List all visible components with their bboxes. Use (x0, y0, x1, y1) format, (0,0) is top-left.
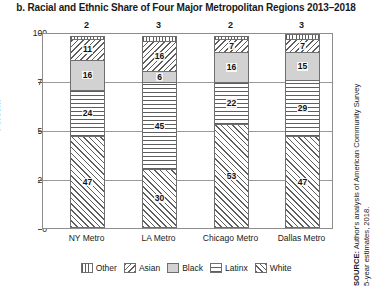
legend: Other Asian Black Latinx White (0, 263, 372, 273)
segment-asian-chicago: 7 (214, 39, 249, 53)
legend-label-white: White (270, 263, 292, 273)
legend-item-asian[interactable]: Asian (124, 263, 160, 273)
legend-item-white[interactable]: White (255, 263, 292, 273)
legend-swatch-latinx-icon (210, 263, 222, 273)
bar-chicago-metro[interactable]: 7 16 22 53 (214, 37, 249, 228)
segment-latinx-dallas: 29 (285, 80, 320, 137)
legend-item-other[interactable]: Other (81, 263, 117, 273)
source-text: Author's analysis of American Community … (352, 84, 361, 251)
other-value-chicago: 2 (213, 20, 248, 30)
legend-label-asian: Asian (139, 263, 160, 273)
bar-dallas-metro[interactable]: 7 15 29 47 (285, 35, 320, 228)
segment-asian-la: 16 (142, 41, 177, 72)
legend-swatch-white-icon (255, 263, 267, 273)
other-value-la: 3 (141, 20, 176, 30)
segment-white-la: 30 (142, 169, 177, 228)
segment-latinx-la: 45 (142, 82, 177, 170)
plot-area: 11 16 24 47 16 6 45 30 7 16 22 53 7 15 2… (42, 33, 333, 229)
other-value-dallas: 3 (284, 20, 319, 30)
chart-title: b. Racial and Ethnic Share of Four Major… (0, 2, 372, 13)
legend-swatch-other-icon (81, 263, 93, 273)
source-note: SOURCE: Author's analysis of American Co… (352, 36, 372, 286)
segment-latinx-chicago: 22 (214, 82, 249, 125)
x-label-la-metro: LA Metro (123, 233, 194, 243)
segment-black-ny: 16 (70, 60, 105, 91)
x-label-chicago-metro: Chicago Metro (195, 233, 266, 243)
legend-item-latinx[interactable]: Latinx (210, 263, 248, 273)
legend-item-black[interactable]: Black (167, 263, 203, 273)
legend-label-latinx: Latinx (225, 263, 248, 273)
chart-figure: b. Racial and Ethnic Share of Four Major… (0, 0, 386, 290)
legend-label-other: Other (96, 263, 117, 273)
legend-swatch-asian-icon (124, 263, 136, 273)
segment-white-dallas: 47 (285, 136, 320, 228)
legend-swatch-black-icon (167, 263, 179, 273)
segment-white-chicago: 53 (214, 124, 249, 228)
legend-label-black: Black (182, 263, 203, 273)
segment-black-chicago: 16 (214, 52, 249, 83)
bar-ny-metro[interactable]: 11 16 24 47 (70, 37, 105, 228)
segment-asian-ny: 11 (70, 39, 105, 61)
x-label-dallas-metro: Dallas Metro (266, 233, 337, 243)
source-prefix: SOURCE: (352, 251, 361, 286)
segment-white-ny: 47 (70, 136, 105, 228)
bar-la-metro[interactable]: 16 6 45 30 (142, 37, 177, 228)
y-axis-label: Percent (0, 100, 2, 131)
y-tickmark-0 (38, 229, 42, 230)
segment-asian-dallas: 7 (285, 39, 320, 53)
source-line2: 5-year estimates, 2018. (362, 36, 372, 286)
other-value-ny: 2 (69, 20, 104, 30)
x-label-ny-metro: NY Metro (51, 233, 122, 243)
segment-black-dallas: 15 (285, 52, 320, 81)
segment-latinx-ny: 24 (70, 90, 105, 137)
